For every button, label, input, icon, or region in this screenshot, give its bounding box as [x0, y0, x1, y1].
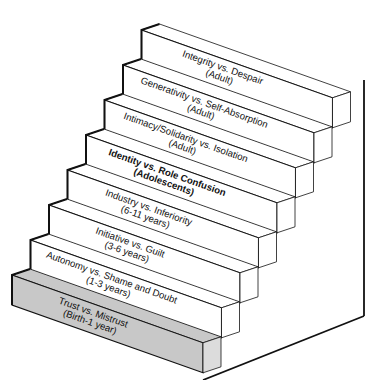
step-side: [277, 197, 295, 233]
step-side: [333, 92, 351, 128]
step-side: [314, 127, 332, 163]
staircase-diagram: Integrity vs. Despair(Adult)Generativity…: [0, 0, 374, 380]
step-side: [240, 267, 258, 303]
step-side: [259, 232, 277, 268]
step-side: [203, 337, 221, 373]
step-side: [222, 302, 240, 338]
step-side: [296, 162, 314, 198]
